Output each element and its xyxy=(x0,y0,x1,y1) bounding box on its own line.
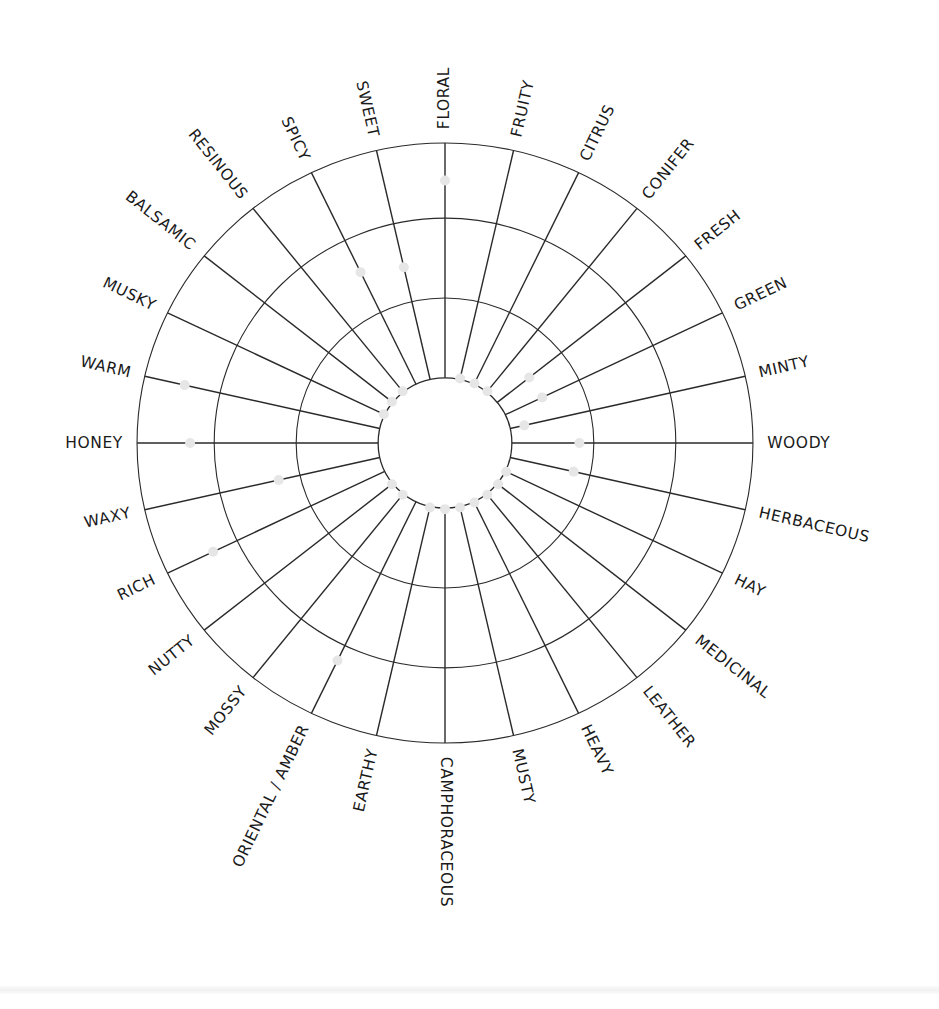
category-label: SWEET xyxy=(352,79,382,139)
data-point xyxy=(537,392,547,402)
data-point xyxy=(208,547,218,557)
odor-profile-wheel: FLORALFRUITYCITRUSCONIFERFRESHGREENMINTY… xyxy=(0,0,939,1009)
inner-circle xyxy=(378,378,512,508)
data-point xyxy=(180,380,190,390)
category-label: CAMPHORACEOUS xyxy=(437,757,455,907)
spoke xyxy=(311,173,416,385)
spoke xyxy=(487,494,637,678)
data-point xyxy=(455,374,465,384)
category-label: MUSTY xyxy=(508,747,538,806)
spoke xyxy=(168,471,385,573)
spoke xyxy=(487,208,637,392)
data-point xyxy=(425,502,435,512)
data-point xyxy=(379,409,389,419)
category-label: RESINOUS xyxy=(185,125,252,202)
category-label: BALSAMIC xyxy=(122,187,199,254)
data-point xyxy=(440,176,450,186)
spoke xyxy=(460,150,514,379)
data-point xyxy=(519,420,529,430)
data-point xyxy=(482,386,492,396)
data-point xyxy=(398,386,408,396)
spoke xyxy=(204,484,392,630)
category-label: WAXY xyxy=(82,504,132,532)
category-label: FRUITY xyxy=(507,78,537,139)
data-point xyxy=(493,479,503,489)
category-label: WARM xyxy=(79,352,133,381)
data-point xyxy=(356,267,366,277)
spoke xyxy=(145,457,380,509)
category-label: WOODY xyxy=(767,434,830,452)
category-labels: FLORALFRUITYCITRUSCONIFERFRESHGREENMINTY… xyxy=(65,67,871,907)
spoke xyxy=(253,494,403,678)
category-spokes xyxy=(137,143,753,743)
category-label: HEAVY xyxy=(577,722,617,779)
category-label: GREEN xyxy=(731,274,790,315)
data-point xyxy=(574,438,584,448)
data-point xyxy=(274,475,284,485)
category-label: RICH xyxy=(114,571,158,605)
spoke xyxy=(505,471,722,573)
data-point xyxy=(469,378,479,388)
data-point xyxy=(398,490,408,500)
data-point xyxy=(482,490,492,500)
category-label: MEDICINAL xyxy=(692,631,775,702)
bottom-divider xyxy=(0,986,939,994)
spoke xyxy=(311,502,416,714)
category-label: HAY xyxy=(732,571,769,601)
category-label: MOSSY xyxy=(201,682,251,738)
spoke xyxy=(510,457,745,509)
category-label: HONEY xyxy=(65,434,123,452)
category-label: MINTY xyxy=(757,352,811,381)
data-point xyxy=(455,502,465,512)
spoke xyxy=(204,256,392,402)
category-label: LEATHER xyxy=(639,682,699,751)
data-point xyxy=(501,467,511,477)
data-point xyxy=(387,479,397,489)
data-point xyxy=(569,467,579,477)
data-point xyxy=(399,262,409,272)
data-point xyxy=(333,655,343,665)
data-point xyxy=(469,498,479,508)
data-point xyxy=(387,397,397,407)
category-label: MUSKY xyxy=(100,274,159,315)
category-label: SPICY xyxy=(277,114,314,164)
category-label: EARTHY xyxy=(350,747,382,814)
spoke xyxy=(460,507,514,736)
category-label: FLORAL xyxy=(436,67,454,129)
category-label: NUTTY xyxy=(145,631,199,679)
category-label: FRESH xyxy=(691,206,744,254)
category-label: CONIFER xyxy=(638,135,698,203)
spoke xyxy=(474,173,579,385)
data-point xyxy=(440,504,450,514)
data-point xyxy=(524,372,534,382)
spoke xyxy=(497,484,685,630)
spoke xyxy=(474,502,579,714)
spoke xyxy=(376,507,430,736)
category-label: CITRUS xyxy=(576,102,618,164)
category-label: HERBACEOUS xyxy=(757,504,871,547)
spoke xyxy=(168,313,385,415)
category-label: ORIENTAL / AMBER xyxy=(229,722,313,871)
data-point xyxy=(185,438,195,448)
spoke xyxy=(510,376,745,428)
spoke xyxy=(253,208,403,392)
